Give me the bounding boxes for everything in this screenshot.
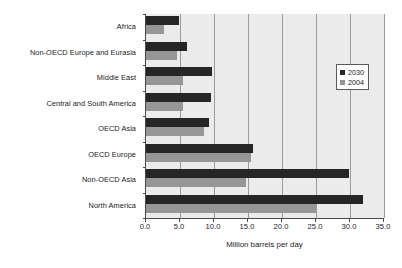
category-label-row: OECD Asia	[0, 116, 141, 142]
category-axis: Africa Non-OECD Europe and Eurasia Middl…	[0, 14, 141, 218]
bar-chart-figure: Africa Non-OECD Europe and Eurasia Middl…	[0, 0, 402, 268]
category-label-row: Non-OECD Asia	[0, 167, 141, 193]
bar-2004	[146, 127, 204, 136]
legend: 2030 2004	[336, 64, 369, 90]
x-axis-tick-label: 35.0	[376, 222, 391, 232]
bar-2004	[146, 51, 177, 60]
bar-2030	[146, 67, 212, 76]
x-axis-tick-label: 20.0	[274, 222, 289, 232]
bar-2030	[146, 42, 187, 51]
bar-2030	[146, 169, 349, 178]
x-axis-tick-label: 10.0	[206, 222, 221, 232]
category-label-row: OECD Europe	[0, 142, 141, 168]
category-label: North America	[89, 201, 136, 210]
bar-group	[146, 40, 384, 66]
bar-group	[146, 167, 384, 193]
gridline	[384, 14, 385, 218]
category-label-row: North America	[0, 193, 141, 219]
x-axis-tick-label: 30.0	[342, 222, 357, 232]
bar-2004	[146, 204, 316, 213]
x-axis-tick-label: 0.0	[140, 222, 151, 232]
x-axis-tick-label: 15.0	[240, 222, 255, 232]
bar-group	[146, 116, 384, 142]
category-label: OECD Asia	[98, 124, 136, 133]
bar-group	[146, 193, 384, 219]
category-label: Africa	[117, 22, 136, 31]
category-label: Non-OECD Asia	[82, 175, 136, 184]
x-axis-title: Million barrels per day	[145, 240, 384, 249]
bar-group	[146, 142, 384, 168]
category-label: Middle East	[97, 73, 136, 82]
category-label: OECD Europe	[88, 150, 136, 159]
x-axis-tick-labels: 0.05.010.015.020.025.030.035.0	[145, 222, 384, 234]
bar-2004	[146, 153, 251, 162]
category-label: Central and South America	[46, 99, 136, 108]
bar-2030	[146, 93, 211, 102]
bar-2004	[146, 102, 183, 111]
bar-2004	[146, 25, 164, 34]
legend-label-2030: 2030	[348, 68, 364, 77]
bar-2030	[146, 16, 179, 25]
bar-2004	[146, 178, 246, 187]
category-label-row: Central and South America	[0, 91, 141, 117]
x-axis-tick-label: 5.0	[174, 222, 185, 232]
bar-2030	[146, 144, 253, 153]
legend-swatch-2030	[340, 70, 345, 75]
bars-container	[146, 14, 384, 218]
legend-label-2004: 2004	[348, 78, 364, 87]
bar-group	[146, 91, 384, 117]
bar-group	[146, 14, 384, 40]
plot-area	[145, 14, 384, 219]
category-label: Non-OECD Europe and Eurasia	[30, 48, 136, 57]
legend-item-2004: 2004	[340, 77, 366, 87]
bar-2004	[146, 76, 183, 85]
legend-swatch-2004	[340, 80, 345, 85]
legend-item-2030: 2030	[340, 67, 366, 77]
x-axis-tick-label: 25.0	[308, 222, 323, 232]
category-label-row: Africa	[0, 14, 141, 40]
category-label-row: Middle East	[0, 65, 141, 91]
category-label-row: Non-OECD Europe and Eurasia	[0, 40, 141, 66]
bar-2030	[146, 195, 363, 204]
bar-2030	[146, 118, 209, 127]
